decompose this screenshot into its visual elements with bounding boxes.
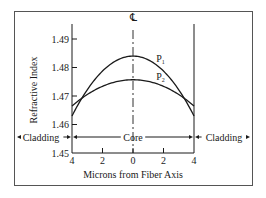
arrowhead-right-icon <box>246 135 250 139</box>
curve-label-p1: P1 <box>156 53 165 65</box>
region-label-center: Core <box>123 132 143 143</box>
y-tick-label: 1.48 <box>52 62 70 73</box>
x-tick-label: 2 <box>161 155 166 166</box>
x-axis-title: Microns from Fiber Axis <box>83 169 183 180</box>
x-tick-label: 4 <box>70 155 75 166</box>
x-ticks: 42024 <box>70 148 197 166</box>
y-tick-label: 1.47 <box>52 91 70 102</box>
y-tick-label: 1.46 <box>52 119 70 130</box>
arrowhead-left-icon <box>17 135 21 139</box>
refractive-index-chart: 1.451.461.471.481.49 42024 P1P2 Cladding… <box>0 0 266 198</box>
arrowhead-right-icon <box>67 135 71 139</box>
x-tick-label: 2 <box>100 155 105 166</box>
curve-label-p2: P2 <box>156 71 165 83</box>
x-tick-label: 0 <box>131 155 136 166</box>
arrowhead-right-icon <box>189 135 193 139</box>
x-tick-label: 4 <box>192 155 197 166</box>
arrowhead-left-icon <box>73 135 77 139</box>
y-axis-title: Refractive Index <box>28 57 39 124</box>
region-annotations: CladdingCoreCladding <box>17 132 250 143</box>
region-label-right: Cladding <box>206 132 243 143</box>
centerline-symbol: ℄ <box>129 11 137 23</box>
y-tick-label: 1.49 <box>52 34 70 45</box>
arrowhead-left-icon <box>195 135 199 139</box>
y-tick-label: 1.45 <box>52 148 70 159</box>
region-label-left: Cladding <box>23 132 60 143</box>
